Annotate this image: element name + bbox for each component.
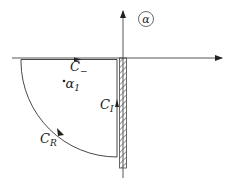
label-c-minus: C− (70, 59, 88, 76)
label-c-i: CI (100, 97, 114, 114)
contour-diagram: α C− α1 CI CR (0, 0, 235, 185)
plane-label: α (142, 13, 150, 26)
arrow-c-r-icon (57, 128, 64, 136)
branch-cut-strip (120, 58, 127, 168)
label-alpha-1: α1 (66, 76, 81, 93)
arrow-c-i-icon (115, 99, 119, 107)
